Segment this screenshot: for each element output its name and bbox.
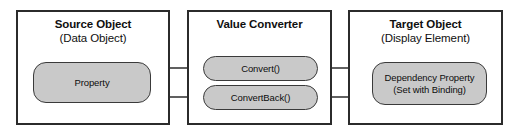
group-target-object-subtitle: (Display Element) [348, 32, 503, 45]
node-property[interactable]: Property [33, 62, 151, 103]
group-source-object-title: Source Object [16, 18, 170, 31]
node-dependency-property-label-line2: (Set with Binding) [393, 84, 466, 96]
node-dependency-property-label-line1: Dependency Property [385, 72, 475, 84]
group-target-object-title: Target Object [348, 18, 503, 31]
node-convert-label: Convert() [241, 63, 280, 75]
group-source-object-subtitle: (Data Object) [16, 32, 170, 45]
node-convert-back-label: ConvertBack() [231, 92, 290, 104]
group-value-converter-title: Value Converter [187, 18, 332, 31]
value-converter-diagram: Source Object (Data Object) Property Val… [0, 0, 519, 136]
node-convert-back[interactable]: ConvertBack() [203, 85, 318, 110]
node-dependency-property[interactable]: Dependency Property (Set with Binding) [372, 62, 487, 105]
node-property-label: Property [74, 77, 109, 89]
node-convert[interactable]: Convert() [203, 56, 318, 81]
